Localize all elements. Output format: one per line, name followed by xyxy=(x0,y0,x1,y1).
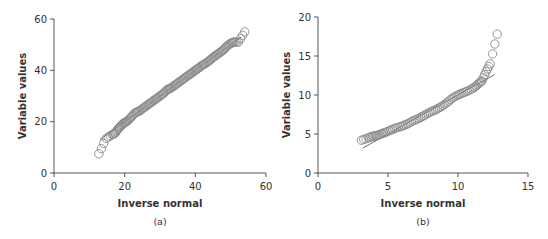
y-axis-label: Variable values xyxy=(281,52,292,138)
x-tick-label: 0 xyxy=(51,181,57,192)
panel-b-chart: 05101520051015Inverse normalVariable val… xyxy=(281,12,534,228)
data-point-marker xyxy=(95,150,103,158)
y-tick-label: 60 xyxy=(34,14,47,25)
data-point-marker xyxy=(488,50,496,58)
y-tick-label: 15 xyxy=(298,51,311,62)
x-tick-label: 10 xyxy=(452,181,465,192)
y-tick-label: 5 xyxy=(305,129,311,140)
x-tick-label: 0 xyxy=(315,181,321,192)
panel-a-chart: 02040600204060Inverse normalVariable val… xyxy=(17,14,272,228)
panel-caption: (b) xyxy=(416,216,429,227)
qq-plot-figure: 02040600204060Inverse normalVariable val… xyxy=(0,0,548,239)
y-tick-label: 20 xyxy=(298,12,311,23)
y-tick-label: 20 xyxy=(34,116,47,127)
data-point-marker xyxy=(97,144,105,152)
x-axis-label: Inverse normal xyxy=(118,198,203,209)
x-tick-label: 5 xyxy=(385,181,391,192)
data-point-marker xyxy=(493,30,501,38)
y-tick-label: 0 xyxy=(305,168,311,179)
x-axis-label: Inverse normal xyxy=(381,198,466,209)
y-axis-label: Variable values xyxy=(17,53,28,139)
data-point-marker xyxy=(486,60,494,68)
panel-caption: (a) xyxy=(153,216,166,227)
x-tick-label: 60 xyxy=(260,181,273,192)
x-tick-label: 15 xyxy=(522,181,535,192)
y-tick-label: 10 xyxy=(298,90,311,101)
y-tick-label: 40 xyxy=(34,65,47,76)
y-tick-label: 0 xyxy=(41,168,47,179)
x-tick-label: 20 xyxy=(118,181,131,192)
data-point-marker xyxy=(491,40,499,48)
x-tick-label: 40 xyxy=(189,181,202,192)
